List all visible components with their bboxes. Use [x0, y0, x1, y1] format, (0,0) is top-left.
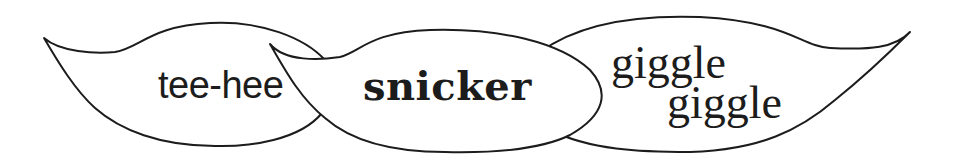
bubble-tee-hee: tee-hee — [44, 23, 336, 146]
bubble-text-tee-hee: tee-hee — [158, 64, 283, 106]
bubble-snicker: snicker — [270, 30, 602, 152]
bubbles-canvas: tee-hee giggle giggle snicker — [0, 0, 953, 163]
laughter-speech-bubbles: tee-hee giggle giggle snicker — [0, 0, 953, 163]
bubble-text-snicker: snicker — [363, 62, 532, 109]
bubble-text-giggle-line-2: giggle — [667, 77, 782, 128]
